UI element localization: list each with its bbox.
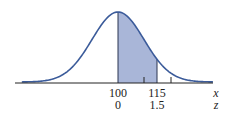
z-axis-label: z	[213, 98, 219, 112]
z-tick-label-0: 0	[115, 98, 121, 112]
z-tick-label-1-5: 1.5	[150, 98, 165, 112]
normal-curve	[22, 12, 213, 82]
normal-distribution-chart: 100 115 0 1.5 x z	[0, 0, 235, 116]
shaded-area	[118, 12, 157, 83]
